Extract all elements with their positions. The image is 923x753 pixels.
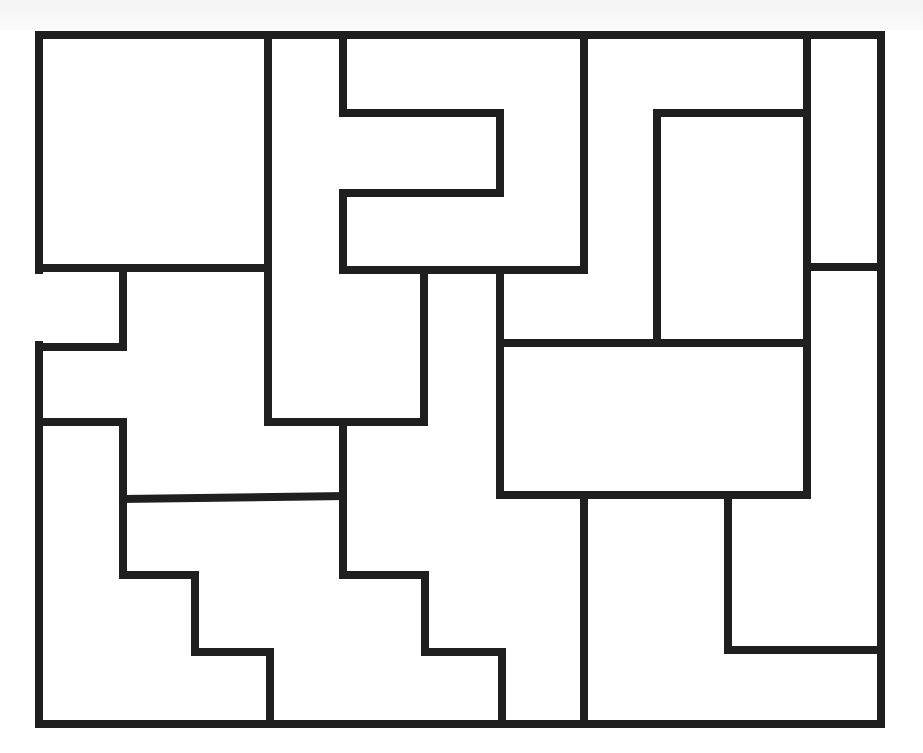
maze-diagram xyxy=(0,0,923,753)
maze-walls xyxy=(39,35,881,724)
maze-wall-w27 xyxy=(123,496,343,499)
